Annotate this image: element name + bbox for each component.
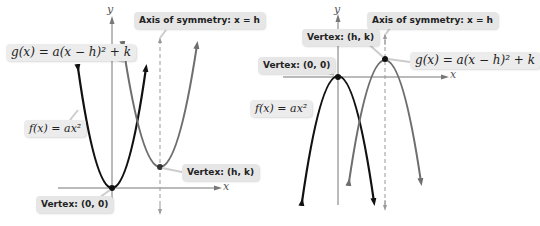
right-vertex-origin [335, 74, 341, 80]
right-vertex-origin-label: Vertex: (0, 0) [258, 57, 335, 74]
right-g-function-label: g(x) = a(x − h)² + k [410, 52, 540, 69]
right-vertex-hk-label: Vertex: (h, k) [302, 29, 379, 46]
right-x-axis-label: x [450, 68, 456, 81]
left-g-function-label: g(x) = a(x − h)² + k [6, 44, 136, 61]
left-vertex-hk [157, 164, 163, 170]
left-f-function-label: f(x) = ax² [24, 120, 86, 137]
left-y-axis-label: y [107, 3, 113, 16]
left-axis-of-symmetry-label: Axis of symmetry: x = h [134, 12, 265, 29]
left-vertex-hk-label: Vertex: (h, k) [182, 164, 259, 181]
right-f-function-label: f(x) = ax² [250, 100, 312, 117]
right-y-axis-label: y [334, 3, 340, 16]
right-axis-of-symmetry-label: Axis of symmetry: x = h [367, 12, 498, 29]
left-vertex-origin-label: Vertex: (0, 0) [36, 196, 113, 213]
left-x-axis-label: x [223, 180, 229, 193]
